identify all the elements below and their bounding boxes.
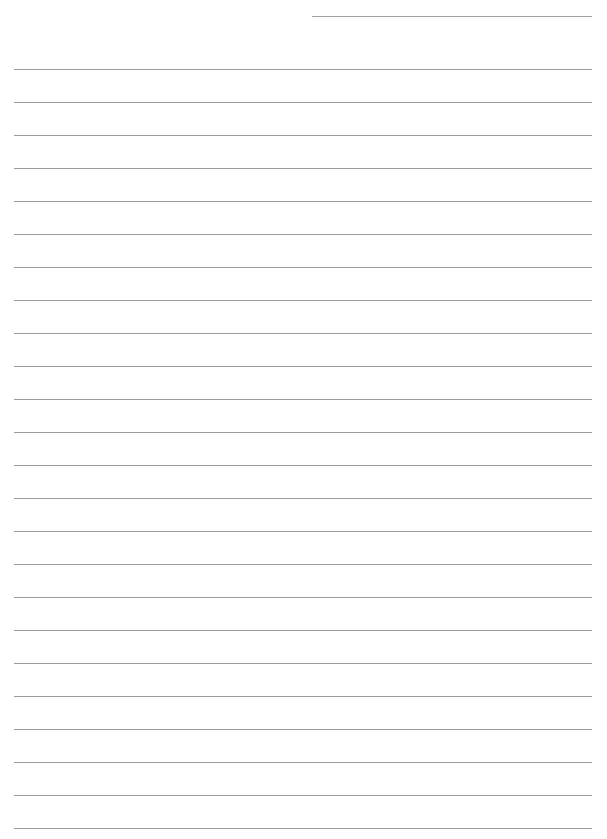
- ruled-line: [14, 333, 592, 334]
- ruled-line: [14, 135, 592, 136]
- ruled-lines-area: [0, 0, 607, 839]
- ruled-line: [14, 69, 592, 70]
- ruled-line: [14, 696, 592, 697]
- ruled-line: [14, 267, 592, 268]
- ruled-line: [14, 630, 592, 631]
- ruled-line: [14, 762, 592, 763]
- ruled-line: [14, 399, 592, 400]
- ruled-line: [14, 564, 592, 565]
- ruled-line: [14, 828, 592, 829]
- ruled-line: [14, 234, 592, 235]
- ruled-line: [14, 465, 592, 466]
- ruled-line: [14, 663, 592, 664]
- ruled-line: [14, 102, 592, 103]
- ruled-line: [14, 795, 592, 796]
- ruled-line: [14, 201, 592, 202]
- ruled-line: [14, 300, 592, 301]
- ruled-line: [14, 498, 592, 499]
- ruled-line: [14, 168, 592, 169]
- ruled-line: [14, 597, 592, 598]
- ruled-line: [14, 366, 592, 367]
- ruled-line: [14, 531, 592, 532]
- ruled-line: [14, 729, 592, 730]
- ruled-line: [14, 432, 592, 433]
